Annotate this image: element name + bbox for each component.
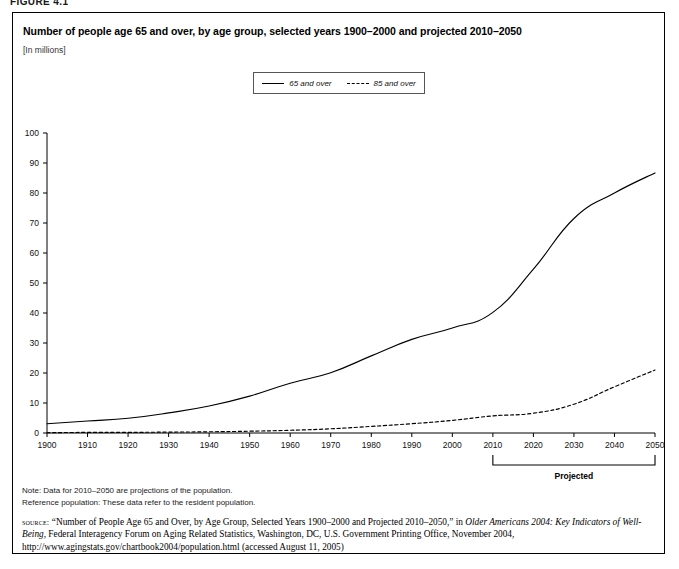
figure-page: FIGURE 4.1 Number of people age 65 and o…	[0, 0, 679, 569]
chart-title: Number of people age 65 and over, by age…	[23, 25, 522, 37]
legend-item-85-and-over: 85 and over	[347, 79, 416, 88]
source-text-part2: , Federal Interagency Forum on Aging Rel…	[22, 529, 514, 551]
note-line-1: Note: Data for 2010–2050 are projections…	[22, 485, 652, 497]
legend-label-85-and-over: 85 and over	[374, 79, 416, 88]
figure-number-label: FIGURE 4.1	[10, 0, 68, 6]
chart-units-label: [In millions]	[23, 45, 66, 55]
source-label: source:	[22, 517, 49, 527]
source-text-part1: “Number of People Age 65 and Over, by Ag…	[52, 517, 466, 527]
legend-label-65-and-over: 65 and over	[289, 79, 331, 88]
chart-source: source: “Number of People Age 65 and Ove…	[22, 516, 656, 553]
chart-notes: Note: Data for 2010–2050 are projections…	[22, 485, 652, 508]
note-line-2: Reference population: These data refer t…	[22, 497, 652, 509]
legend-solid-line-icon	[262, 83, 284, 84]
legend-item-65-and-over: 65 and over	[262, 79, 331, 88]
legend-dashed-line-icon	[347, 83, 369, 84]
chart-legend: 65 and over 85 and over	[253, 72, 425, 94]
